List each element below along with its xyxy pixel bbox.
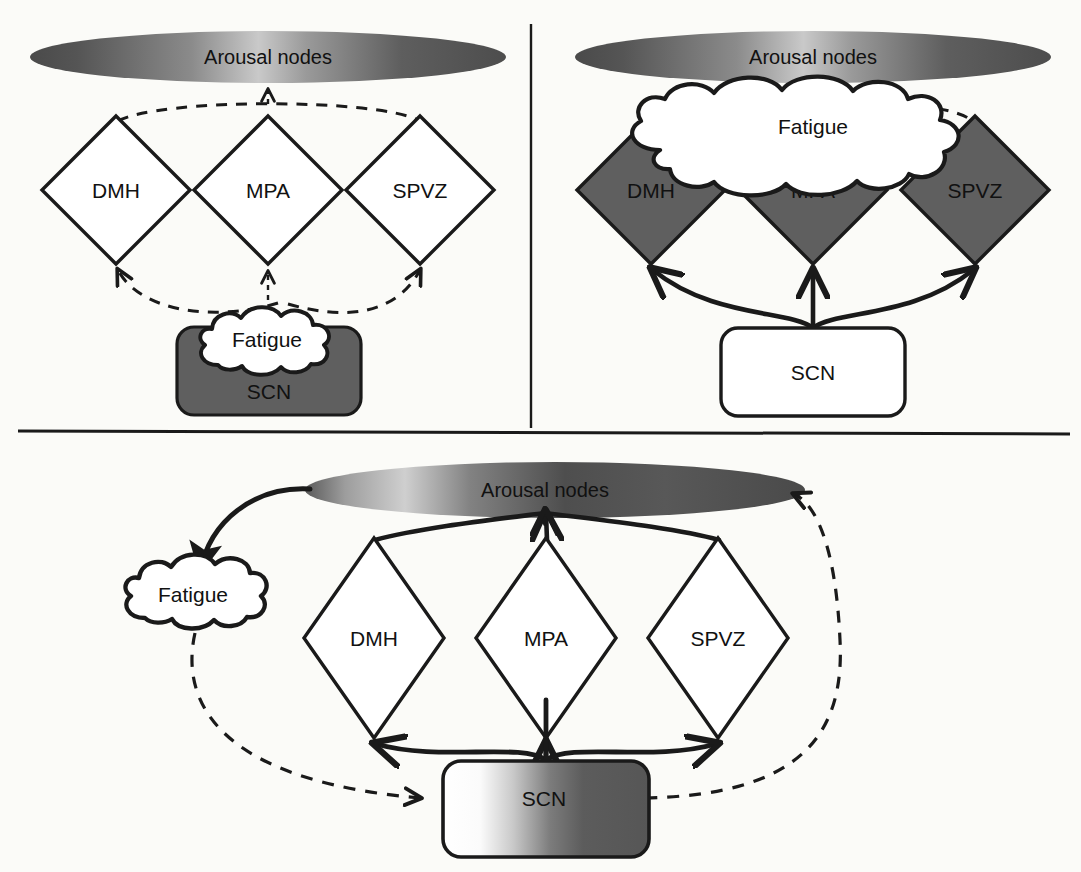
node-label-mpa-a: MPA bbox=[246, 179, 290, 202]
node-diamond-mpa-a: MPA bbox=[194, 116, 342, 264]
node-label-dmh-b: DMH bbox=[627, 179, 675, 202]
dashed-to-spvz-a bbox=[288, 270, 420, 313]
arousal-nodes-label-c: Arousal nodes bbox=[481, 479, 609, 501]
fatigue-cloud-b: Fatigue bbox=[632, 77, 958, 196]
node-label-spvz-c: SPVZ bbox=[691, 627, 746, 650]
fatigue-label-b: Fatigue bbox=[778, 115, 848, 138]
node-diamond-spvz-a: SPVZ bbox=[346, 116, 494, 264]
fatigue-label-c: Fatigue bbox=[158, 583, 228, 606]
arousal-nodes-label-a: Arousal nodes bbox=[204, 46, 332, 68]
horizontal-divider bbox=[18, 431, 1070, 434]
node-label-dmh-a: DMH bbox=[92, 179, 140, 202]
node-label-spvz-a: SPVZ bbox=[393, 179, 448, 202]
panel-b: Arousal nodes DMH MPA SPVZ Fatigue bbox=[575, 31, 1051, 416]
solid-arousal-to-fatigue-c bbox=[200, 489, 310, 572]
solid-scn-to-spvz-c bbox=[546, 744, 716, 760]
scn-label-a: SCN bbox=[247, 380, 291, 403]
three-panel-circadian-diagram: Arousal nodes DMH MPA SPVZ SCN bbox=[0, 0, 1081, 872]
node-diamond-dmh-c: DMH bbox=[304, 538, 444, 738]
fatigue-cloud-a: Fatigue bbox=[200, 307, 329, 375]
solid-scn-to-dmh-c bbox=[376, 744, 546, 760]
node-label-mpa-c: MPA bbox=[524, 627, 568, 650]
arousal-nodes-label-b: Arousal nodes bbox=[749, 46, 877, 68]
panel-c: Arousal nodes Fatigue DMH MPA SPVZ bbox=[126, 462, 841, 857]
figure-page: Arousal nodes DMH MPA SPVZ SCN bbox=[0, 0, 1081, 872]
scn-box-b: SCN bbox=[721, 328, 905, 416]
solid-spvz-to-arousal-c bbox=[545, 513, 719, 540]
solid-dmh-to-arousal-c bbox=[375, 513, 545, 540]
node-label-dmh-c: DMH bbox=[350, 627, 398, 650]
scn-box-c: SCN bbox=[443, 761, 649, 857]
scn-label-c: SCN bbox=[522, 787, 566, 810]
node-label-spvz-b: SPVZ bbox=[948, 179, 1003, 202]
node-diamond-dmh-a: DMH bbox=[42, 116, 190, 264]
dashed-to-dmh-a bbox=[118, 270, 278, 312]
node-diamond-spvz-c: SPVZ bbox=[648, 538, 788, 738]
fatigue-cloud-c: Fatigue bbox=[126, 555, 267, 629]
solid-scn-to-spvz-b bbox=[813, 270, 973, 328]
scn-label-b: SCN bbox=[791, 361, 835, 384]
panel-a: Arousal nodes DMH MPA SPVZ SCN bbox=[30, 31, 506, 415]
fatigue-label-a: Fatigue bbox=[232, 328, 302, 351]
solid-scn-to-dmh-b bbox=[653, 270, 813, 328]
